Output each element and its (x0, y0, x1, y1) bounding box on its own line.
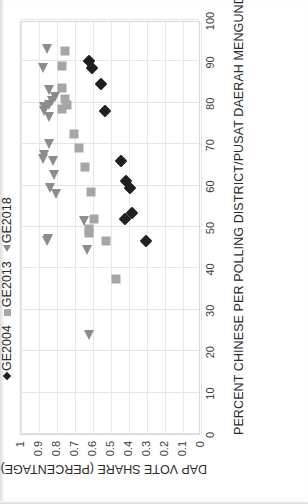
data-point-ge2004 (98, 105, 111, 118)
x-tick-label: 70 (204, 139, 216, 151)
data-point-ge2018 (44, 112, 54, 122)
data-point-ge2013 (87, 187, 96, 196)
legend-item-ge2013: GE2013 (0, 261, 14, 316)
gridline-vertical (21, 60, 199, 61)
gridline-vertical (21, 19, 199, 20)
x-tick-label: 40 (204, 263, 216, 275)
data-point-ge2018 (44, 139, 54, 149)
scatter-plot-area (20, 21, 200, 435)
data-point-ge2013 (70, 129, 79, 138)
data-point-ge2004 (95, 78, 108, 91)
x-axis-title: PERCENT CHINESE PER POLLING DISTRICT/PUS… (232, 21, 246, 435)
diamond-marker-icon (3, 372, 11, 380)
data-point-ge2018 (48, 156, 58, 166)
data-point-ge2013 (61, 47, 70, 56)
data-point-ge2013 (74, 144, 83, 153)
legend-label: GE2004 (0, 325, 14, 371)
data-point-ge2018 (79, 216, 89, 226)
chart-legend: GE2004GE2013GE2018 (0, 197, 14, 379)
data-point-ge2013 (111, 274, 120, 283)
legend-label: GE2018 (0, 197, 14, 243)
gridline-vertical (21, 433, 199, 434)
data-point-ge2018 (49, 170, 59, 180)
x-tick-label: 80 (204, 98, 216, 110)
legend-item-ge2018: GE2018 (0, 197, 14, 252)
gridline-horizontal (201, 22, 202, 434)
gridline-horizontal (165, 22, 166, 434)
data-point-ge2018 (38, 154, 48, 164)
data-point-ge2013 (80, 162, 89, 171)
data-point-ge2018 (42, 44, 52, 54)
x-tick-label: 50 (204, 222, 216, 234)
gridline-horizontal (111, 22, 112, 434)
gridline-horizontal (147, 22, 148, 434)
rotated-chart-stage: GE2004GE2013GE2018 010203040506070809010… (4, 7, 304, 497)
data-point-ge2018 (84, 330, 94, 340)
gridline-horizontal (39, 22, 40, 434)
legend-label: GE2013 (0, 261, 14, 307)
gridline-horizontal (21, 22, 22, 434)
data-point-ge2013 (57, 105, 66, 114)
x-tick-label: 60 (204, 180, 216, 192)
gridline-vertical (21, 350, 199, 351)
x-tick-label: 0 (204, 432, 216, 438)
gridline-vertical (21, 226, 199, 227)
gridline-vertical (21, 309, 199, 310)
square-marker-icon (4, 309, 11, 316)
data-point-ge2018 (42, 237, 52, 247)
x-tick-label: 90 (204, 56, 216, 68)
data-point-ge2004 (140, 235, 153, 248)
data-point-ge2004 (115, 154, 128, 167)
triangle-marker-icon (3, 245, 11, 252)
legend-item-ge2004: GE2004 (0, 325, 14, 379)
x-tick-label: 20 (204, 346, 216, 358)
data-point-ge2018 (51, 189, 61, 199)
gridline-horizontal (75, 22, 76, 434)
data-point-ge2013 (89, 214, 98, 223)
x-tick-label: 100 (204, 12, 216, 30)
x-tick-label: 30 (204, 305, 216, 317)
gridline-horizontal (183, 22, 184, 434)
scanned-page: GE2004GE2013GE2018 010203040506070809010… (0, 0, 308, 504)
gridline-vertical (21, 392, 199, 393)
gridline-horizontal (129, 22, 130, 434)
x-tick-label: 10 (204, 387, 216, 399)
data-point-ge2013 (101, 237, 110, 246)
data-point-ge2013 (84, 229, 93, 238)
data-point-ge2013 (57, 61, 66, 70)
data-point-ge2018 (38, 63, 48, 73)
y-axis-title: DAP VOTE SHARE (PERCENTAGE) (27, 462, 207, 476)
data-point-ge2018 (82, 245, 92, 255)
gridline-vertical (21, 267, 199, 268)
